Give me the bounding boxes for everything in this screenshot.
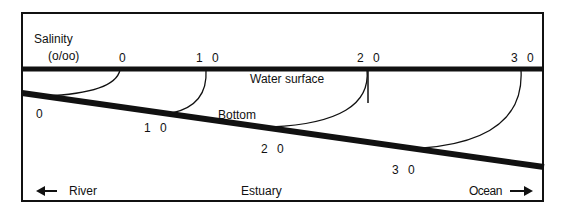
salinity-unit: (o/oo) bbox=[48, 50, 79, 62]
salinity-title: Salinity bbox=[34, 33, 73, 45]
surface-label-0: 0 bbox=[119, 52, 129, 64]
ocean-label: Ocean bbox=[469, 185, 502, 197]
estuary-salinity-diagram bbox=[0, 0, 561, 213]
isohaline-30 bbox=[423, 70, 521, 148]
water-surface-label: Water surface bbox=[250, 73, 324, 85]
bottom-label-10: 1 0 bbox=[144, 122, 170, 134]
river-label: River bbox=[69, 185, 97, 197]
surface-label-20: 2 0 bbox=[357, 52, 383, 64]
bottom-label-20: 2 0 bbox=[261, 143, 287, 155]
isohaline-0 bbox=[45, 70, 120, 96]
bottom-label-30: 3 0 bbox=[392, 164, 418, 176]
arrow-right-icon bbox=[510, 186, 533, 196]
bottom-label: Bottom bbox=[218, 109, 256, 121]
surface-label-10: 1 0 bbox=[196, 52, 222, 64]
surface-label-30: 3 0 bbox=[511, 52, 537, 64]
isohaline-10 bbox=[172, 70, 206, 113]
arrow-left-icon bbox=[36, 186, 57, 196]
bottom-label-0: 0 bbox=[36, 108, 46, 120]
estuary-label: Estuary bbox=[241, 185, 282, 197]
